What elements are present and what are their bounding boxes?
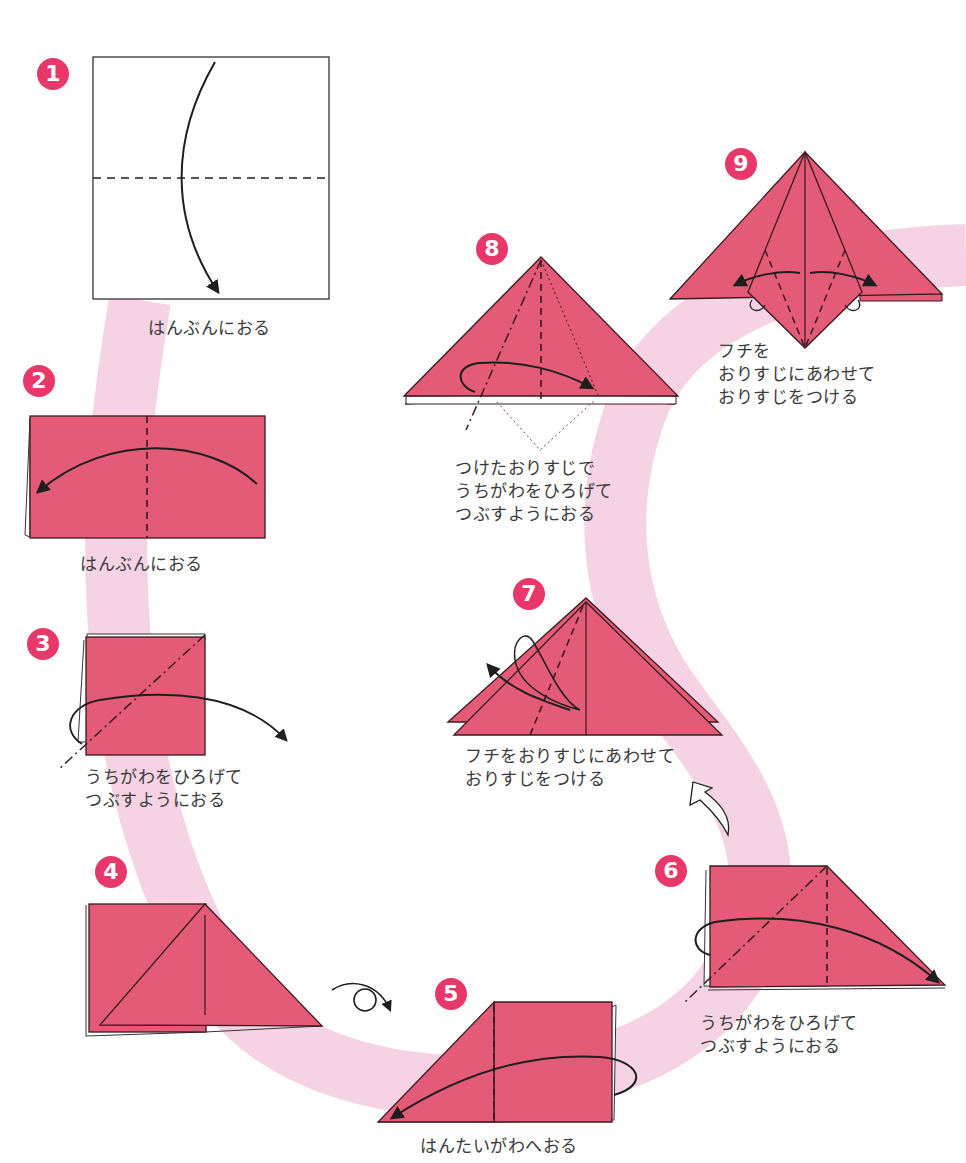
step-6-badge: 6	[655, 855, 687, 887]
step-9-caption: フチを おりすじにあわせて おりすじをつける	[718, 340, 876, 409]
step-1-diagram	[93, 57, 329, 299]
step-1-badge: 1	[37, 58, 69, 90]
step-5-badge: 5	[435, 978, 467, 1010]
origami-diagram	[0, 0, 966, 1163]
step-2-caption: はんぶんにおる	[80, 553, 203, 576]
step-8-badge: 8	[476, 233, 508, 265]
step-3-caption: うちがわをひろげて つぶすようにおる	[85, 766, 243, 812]
turn-over-icon	[332, 984, 390, 1011]
step-4-diagram	[86, 904, 322, 1036]
step-3-diagram	[58, 634, 286, 770]
step-2-diagram	[25, 416, 265, 538]
step-3-badge: 3	[27, 628, 59, 660]
step-4-badge: 4	[95, 856, 127, 888]
step-5-caption: はんたいがわへおる	[420, 1135, 578, 1158]
step-7-badge: 7	[513, 578, 545, 610]
step-6-caption: うちがわをひろげて つぶすようにおる	[700, 1012, 858, 1058]
step-8-caption: つけたおりすじで うちがわをひろげて つぶすようにおる	[455, 457, 613, 526]
step-2-badge: 2	[23, 365, 55, 397]
step-6-diagram	[685, 866, 945, 1002]
step-7-caption: フチをおりすじにあわせて おりすじをつける	[465, 745, 675, 791]
step-1-caption: はんぶんにおる	[148, 317, 271, 340]
step-9-badge: 9	[725, 148, 757, 180]
